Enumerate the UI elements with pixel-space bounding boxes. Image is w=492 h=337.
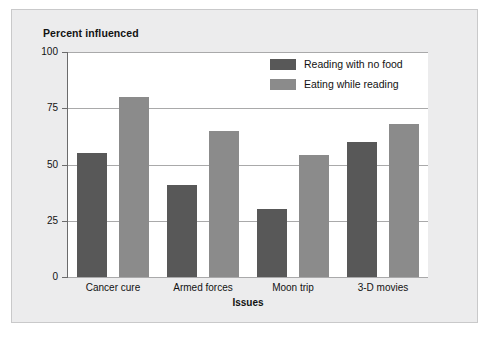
bar-eating-while-reading-moon-trip: [299, 155, 329, 277]
y-tick-label-75: 75: [24, 103, 58, 113]
y-tick-label-wrap-50: 50: [22, 160, 58, 170]
y-tick-label-wrap-25: 25: [22, 216, 58, 226]
y-tick-label-wrap-0: 0: [22, 272, 58, 282]
y-tick-label-100: 100: [24, 47, 58, 57]
legend-swatch: [270, 59, 296, 70]
bar-eating-while-reading-3-d-movies: [389, 124, 419, 277]
x-category-label-cancer-cure: Cancer cure: [68, 282, 158, 293]
bar-eating-while-reading-cancer-cure: [119, 97, 149, 277]
legend-label: Eating while reading: [304, 78, 399, 91]
y-tick-label-50: 50: [24, 160, 58, 170]
x-axis-title: Issues: [68, 297, 428, 308]
legend-swatch: [270, 79, 296, 90]
x-category-label-armed-forces: Armed forces: [158, 282, 248, 293]
chart-figure: Percent influenced 0255075100 Cancer cur…: [0, 0, 492, 337]
y-tick-label-0: 0: [24, 272, 58, 282]
y-tick-label-wrap-100: 100: [22, 47, 58, 57]
x-category-label-moon-trip: Moon trip: [248, 282, 338, 293]
y-tick-label-25: 25: [24, 216, 58, 226]
y-tick-label-wrap-75: 75: [22, 103, 58, 113]
chart-title: Percent influenced: [43, 27, 139, 39]
x-category-label-3-d-movies: 3-D movies: [338, 282, 428, 293]
gridline-100: [68, 52, 428, 53]
bar-reading-with-no-food-cancer-cure: [77, 153, 107, 277]
bar-reading-with-no-food-3-d-movies: [347, 142, 377, 277]
bar-reading-with-no-food-moon-trip: [257, 209, 287, 277]
bar-reading-with-no-food-armed-forces: [167, 185, 197, 277]
legend-label: Reading with no food: [304, 58, 403, 71]
bar-eating-while-reading-armed-forces: [209, 131, 239, 277]
x-axis-line: [68, 277, 428, 278]
